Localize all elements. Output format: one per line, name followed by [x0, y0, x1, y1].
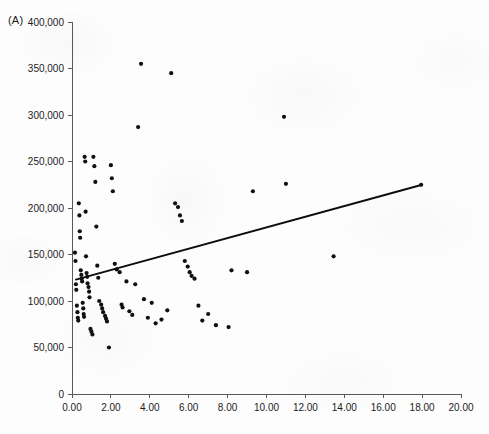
y-tick-label: 300,000: [28, 110, 65, 121]
y-tick-label: 50,000: [33, 342, 64, 353]
data-point: [154, 321, 158, 325]
data-point: [139, 62, 143, 66]
data-point: [226, 325, 230, 329]
data-point: [87, 295, 91, 299]
trend-line-layer: [76, 185, 422, 280]
data-point: [96, 276, 100, 280]
data-point-layer: [73, 62, 423, 350]
data-point: [74, 288, 78, 292]
x-tick-label: 0.00: [62, 402, 82, 413]
data-point: [113, 262, 117, 266]
data-point: [186, 264, 190, 268]
x-tick-label: 20.00: [448, 402, 473, 413]
data-point: [282, 115, 286, 119]
scatter-plot-figure: (A) 050,000100,000150,000200,000250,0003…: [0, 0, 489, 434]
data-point: [245, 270, 249, 274]
data-point: [76, 318, 80, 322]
x-tick-label: 2.00: [101, 402, 121, 413]
data-point: [73, 251, 77, 255]
data-point: [86, 285, 90, 289]
data-point: [99, 303, 103, 307]
y-tick-label: 150,000: [28, 249, 65, 260]
data-point: [75, 310, 79, 314]
y-axis: 050,000100,000150,000200,000250,000300,0…: [28, 17, 72, 400]
data-point: [91, 155, 95, 159]
data-point: [85, 281, 89, 285]
data-point: [82, 315, 86, 319]
data-point: [150, 301, 154, 305]
data-point: [79, 268, 83, 272]
data-point: [188, 270, 192, 274]
data-point: [200, 318, 204, 322]
data-point: [192, 277, 196, 281]
data-point: [92, 164, 96, 168]
data-point: [133, 282, 137, 286]
x-tick-label: 12.00: [293, 402, 318, 413]
data-point: [100, 306, 104, 310]
data-point: [196, 304, 200, 308]
data-point: [81, 301, 85, 305]
data-point: [120, 305, 124, 309]
data-point: [118, 270, 122, 274]
x-tick-label: 4.00: [140, 402, 160, 413]
data-point: [229, 268, 233, 272]
y-tick-label: 250,000: [28, 156, 65, 167]
data-point: [146, 316, 150, 320]
data-point: [79, 273, 83, 277]
data-point: [165, 308, 169, 312]
data-point: [93, 180, 97, 184]
data-point: [169, 71, 173, 75]
data-point: [80, 279, 84, 283]
data-point: [78, 229, 82, 233]
data-point: [97, 299, 101, 303]
x-axis: 0.002.004.006.008.0010.0012.0014.0016.00…: [62, 394, 474, 413]
data-point: [87, 290, 91, 294]
x-tick-label: 10.00: [254, 402, 279, 413]
data-point: [109, 163, 113, 167]
data-point: [214, 323, 218, 327]
data-point: [74, 282, 78, 286]
data-point: [130, 313, 134, 317]
data-point: [176, 205, 180, 209]
data-point: [136, 125, 140, 129]
data-point: [110, 176, 114, 180]
data-point: [178, 213, 182, 217]
data-point: [75, 304, 79, 308]
x-tick-label: 14.00: [332, 402, 357, 413]
data-point: [206, 312, 210, 316]
data-point: [94, 225, 98, 229]
trend-line: [76, 185, 422, 280]
data-point: [73, 259, 77, 263]
data-point: [105, 319, 109, 323]
x-tick-label: 6.00: [179, 402, 199, 413]
data-point: [95, 264, 99, 268]
data-point: [101, 310, 105, 314]
data-point: [159, 318, 163, 322]
data-point: [83, 155, 87, 159]
data-point: [84, 254, 88, 258]
data-point: [142, 297, 146, 301]
x-tick-label: 16.00: [371, 402, 396, 413]
y-tick-label: 400,000: [28, 17, 65, 28]
data-point: [124, 279, 128, 283]
data-point: [78, 236, 82, 240]
data-point: [83, 159, 87, 163]
data-point: [180, 219, 184, 223]
data-point: [90, 332, 94, 336]
y-tick-label: 0: [58, 389, 64, 400]
data-point: [84, 210, 88, 214]
x-tick-label: 8.00: [218, 402, 238, 413]
data-point: [111, 189, 115, 193]
data-point: [332, 254, 336, 258]
plot-canvas: 050,000100,000150,000200,000250,000300,0…: [0, 0, 489, 434]
y-tick-label: 200,000: [28, 203, 65, 214]
data-point: [107, 345, 111, 349]
data-point: [183, 259, 187, 263]
x-tick-label: 18.00: [410, 402, 435, 413]
data-point: [251, 189, 255, 193]
data-point: [284, 182, 288, 186]
data-point: [127, 309, 131, 313]
data-point: [173, 201, 177, 205]
data-point: [84, 271, 88, 275]
y-tick-label: 350,000: [28, 63, 65, 74]
